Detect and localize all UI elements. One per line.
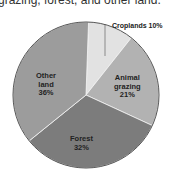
- label-line: 36%: [36, 89, 56, 98]
- label-croplands: Croplands 10%: [112, 22, 163, 31]
- label-line: 21%: [114, 91, 141, 100]
- label-forest: Forest 32%: [70, 135, 93, 152]
- label-animal-grazing: Animal grazing 21%: [114, 74, 141, 100]
- label-line: 32%: [70, 144, 93, 153]
- label-other-land: Other land 36%: [36, 72, 56, 98]
